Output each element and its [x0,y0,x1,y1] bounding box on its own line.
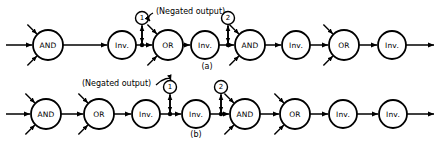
gate-a-1-inv[interactable]: Inv. [108,31,136,59]
operand-stub-up-left [229,24,239,34]
gate-label: OR [162,41,174,50]
gate-a-0-and[interactable]: AND [27,24,63,65]
gate-label: OR [289,110,301,119]
operand-stub-up-left [224,93,234,103]
tap-junction-dot [168,112,172,116]
gate-label: Inv. [385,41,399,50]
negated-output-bottom-label: (Negated output) [82,79,151,88]
gate-a-5-inv[interactable]: Inv. [282,31,310,59]
gate-a-7-inv[interactable]: Inv. [378,31,406,59]
gate-b-7-inv[interactable]: Inv. [379,100,407,128]
gate-b-5-or[interactable]: OR [274,93,310,134]
tap-marker-a-2[interactable]: 2 [222,12,235,48]
tap-marker-a-1[interactable]: 1 [136,12,149,48]
operand-stub-up-left [147,24,157,34]
negated-output-top-label: (Negated output) [156,7,225,16]
logic-chain-diagram: ANDInv.ORInv.ANDInv.ORInv.12ANDORInv.Inv… [0,0,440,145]
operand-stub-down-left [25,125,35,135]
gate-row-b: ANDORInv.Inv.ANDORInv.Inv.12 [6,81,434,135]
gate-b-3-inv[interactable]: Inv. [182,100,210,128]
gate-b-0-and[interactable]: AND [25,93,61,134]
gate-row-a: ANDInv.ORInv.ANDInv.ORInv.12 [6,12,434,66]
gate-label: Inv. [189,110,203,119]
gate-a-6-or[interactable]: OR [323,24,359,65]
gate-a-4-and[interactable]: AND [229,24,265,65]
operand-stub-down-left [323,56,333,66]
tap-junction-dot [226,43,230,47]
negated-output-leader-top [149,13,153,21]
operand-stub-up-left [323,24,333,34]
operand-stub-up-left [78,93,88,103]
operand-stub-up-left [25,93,35,103]
tap-junction-dot [219,112,223,116]
gate-label: OR [338,41,350,50]
tap-marker-number: 2 [226,14,230,22]
gate-a-2-or[interactable]: OR [147,24,183,65]
operand-stub-down-left [229,56,239,66]
gate-b-6-inv[interactable]: Inv. [329,100,357,128]
gate-label: Inv. [289,41,303,50]
gate-label: Inv. [115,41,129,50]
gate-label: Inv. [386,110,400,119]
caption-a: (a) [201,62,212,71]
tap-junction-dot [140,43,144,47]
gate-a-3-inv[interactable]: Inv. [191,31,219,59]
operand-stub-up-left [274,93,284,103]
tap-marker-number: 1 [168,83,172,91]
gate-label: AND [241,41,258,50]
gate-label: OR [93,110,105,119]
operand-stub-down-left [78,125,88,135]
gate-label: AND [236,110,253,119]
tap-marker-b-2[interactable]: 2 [215,81,228,117]
gate-b-4-and[interactable]: AND [224,93,260,134]
operand-stub-up-left [27,24,37,34]
tap-marker-b-1[interactable]: 1 [164,81,177,117]
gate-b-1-or[interactable]: OR [78,93,114,134]
gate-b-2-inv[interactable]: Inv. [132,100,160,128]
gate-label: AND [37,110,54,119]
tap-marker-number: 2 [219,83,223,91]
gate-label: AND [39,41,56,50]
gate-label: Inv. [336,110,350,119]
operand-stub-down-left [147,56,157,66]
operand-stub-down-left [27,56,37,66]
operand-stub-down-left [224,125,234,135]
gate-label: Inv. [198,41,212,50]
gate-label: Inv. [139,110,153,119]
caption-b: (b) [190,130,201,139]
tap-marker-number: 1 [140,14,144,22]
operand-stub-down-left [274,125,284,135]
diagram-canvas: ANDInv.ORInv.ANDInv.ORInv.12ANDORInv.Inv… [0,0,440,145]
